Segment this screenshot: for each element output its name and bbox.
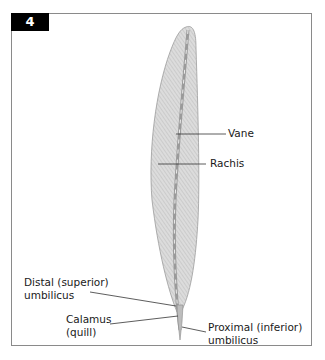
- label-proximal-line1: Proximal (inferior): [208, 321, 302, 334]
- label-calamus: Calamus (quill): [66, 313, 111, 339]
- label-distal-umbilicus: Distal (superior) umbilicus: [24, 276, 109, 302]
- feather-illustration: [0, 0, 325, 360]
- label-distal-line1: Distal (superior): [24, 276, 109, 289]
- label-rachis: Rachis: [210, 157, 244, 170]
- label-distal-line2: umbilicus: [24, 289, 109, 302]
- leader-proximal: [182, 327, 206, 332]
- label-proximal-line2: umbilicus: [208, 334, 302, 347]
- label-proximal-umbilicus: Proximal (inferior) umbilicus: [208, 321, 302, 347]
- label-vane: Vane: [228, 127, 254, 140]
- label-calamus-line1: Calamus: [66, 313, 111, 326]
- label-calamus-line2: (quill): [66, 326, 111, 339]
- feather-calamus: [177, 305, 183, 340]
- leader-calamus: [110, 316, 178, 324]
